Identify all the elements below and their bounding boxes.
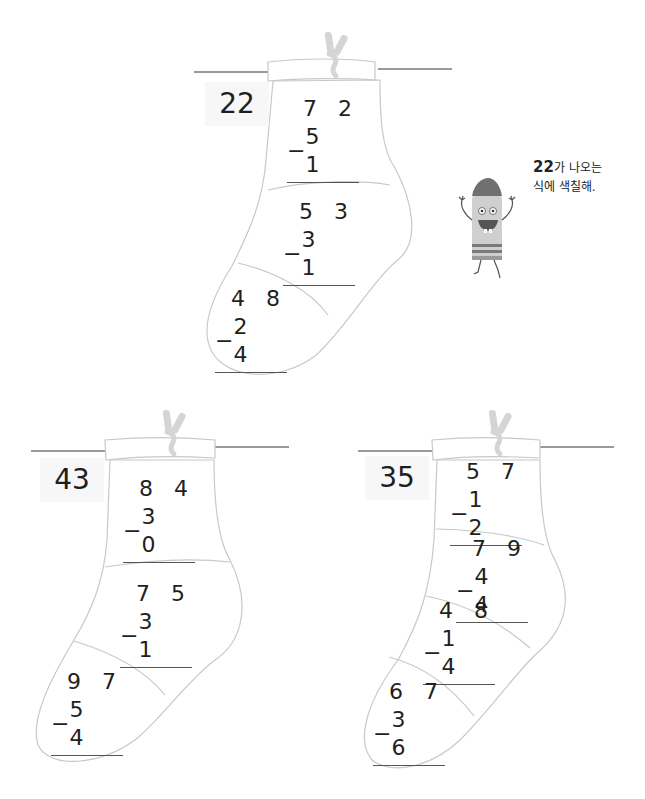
subtrahend: 2 4 <box>233 313 287 369</box>
answer-line <box>51 755 123 756</box>
answer-line <box>373 765 445 766</box>
minuend: 7 2 <box>287 95 359 123</box>
answer-line <box>287 182 359 183</box>
subtraction-problem[interactable]: 4 8 −2 4 <box>215 285 287 373</box>
subtraction-problem[interactable]: 5 3 −3 1 <box>283 198 355 286</box>
stocking-cuff <box>268 59 375 81</box>
answer-label: 43 <box>40 458 104 502</box>
subtraction-problem[interactable]: 4 8 −1 4 <box>423 597 495 685</box>
answer-label: 35 <box>365 456 429 500</box>
minuend: 4 8 <box>423 597 495 625</box>
minus-sign: − <box>51 710 69 738</box>
instruction-line1: 가 나오는 <box>554 161 602 175</box>
answer-line <box>123 562 195 563</box>
minus-sign: − <box>120 622 138 650</box>
minuend: 8 4 <box>123 475 195 503</box>
minus-sign: − <box>283 240 301 268</box>
minuend: 5 7 <box>450 458 522 486</box>
subtraction-problem[interactable]: 8 4 −3 0 <box>123 475 195 563</box>
subtraction-problem[interactable]: 7 5 −3 1 <box>120 580 192 668</box>
subtrahend: 1 2 <box>468 486 522 542</box>
instruction-text: 22가 나오는 식에 색칠해. <box>533 158 602 197</box>
crayon-character-icon <box>459 178 515 278</box>
subtraction-problem[interactable]: 6 7 −3 6 <box>373 678 445 766</box>
subtrahend: 3 1 <box>138 608 192 664</box>
answer-label: 22 <box>205 82 269 126</box>
subtrahend: 3 1 <box>301 226 355 282</box>
minus-sign: − <box>373 720 391 748</box>
minuend: 7 9 <box>456 535 528 563</box>
minus-sign: − <box>287 137 305 165</box>
subtraction-problem[interactable]: 7 2 −5 1 <box>287 95 359 183</box>
answer-line <box>120 667 192 668</box>
subtrahend: 5 1 <box>305 123 359 179</box>
minuend: 5 3 <box>283 198 355 226</box>
minuend: 7 5 <box>120 580 192 608</box>
answer-line <box>215 372 287 373</box>
minuend: 6 7 <box>373 678 445 706</box>
subtrahend: 1 4 <box>441 625 495 681</box>
subtrahend: 5 4 <box>69 696 123 752</box>
subtraction-problem[interactable]: 5 7 −1 2 <box>450 458 522 546</box>
minuend: 4 8 <box>215 285 287 313</box>
subtrahend: 3 6 <box>391 706 445 762</box>
answer-line <box>283 285 355 286</box>
subtrahend: 3 0 <box>141 503 195 559</box>
minus-sign: − <box>123 517 141 545</box>
instruction-line2: 식에 색칠해. <box>533 178 602 197</box>
subtraction-problem[interactable]: 9 7 −5 4 <box>51 668 123 756</box>
minus-sign: − <box>423 639 441 667</box>
minus-sign: − <box>215 327 233 355</box>
instruction-target: 22 <box>533 158 554 176</box>
minuend: 9 7 <box>51 668 123 696</box>
minus-sign: − <box>450 500 468 528</box>
